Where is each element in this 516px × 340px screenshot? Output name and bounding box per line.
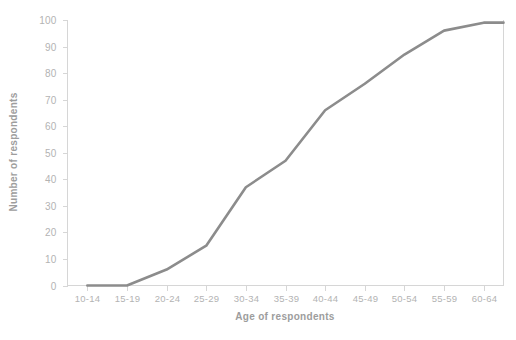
y-tick-label: 0 — [51, 281, 57, 292]
x-axis-title: Age of respondents — [235, 311, 334, 322]
x-tick-label: 15-19 — [115, 293, 140, 304]
x-tick-label: 50-54 — [392, 293, 417, 304]
y-tick-label: 100 — [39, 15, 57, 26]
data-series-line — [87, 23, 503, 286]
x-tick-label: 40-44 — [313, 293, 338, 304]
x-tick-label: 25-29 — [194, 293, 219, 304]
y-tick-label: 90 — [45, 42, 57, 53]
x-tick-label: 45-49 — [353, 293, 378, 304]
x-tick-label: 60-64 — [472, 293, 497, 304]
y-tick-label: 10 — [45, 254, 57, 265]
x-axis-tick-labels: 10-1415-1920-2425-2930-3435-3940-4445-49… — [75, 293, 497, 304]
y-tick-label: 60 — [45, 121, 57, 132]
y-tick-label: 40 — [45, 174, 57, 185]
y-axis-tick-labels: 0102030405060708090100 — [39, 15, 57, 292]
x-tick-label: 20-24 — [155, 293, 180, 304]
x-tick-label: 30-34 — [234, 293, 259, 304]
y-tick-label: 20 — [45, 227, 57, 238]
x-tick-label: 35-39 — [274, 293, 299, 304]
y-tick-label: 80 — [45, 68, 57, 79]
y-tick-label: 70 — [45, 95, 57, 106]
y-axis-ticks — [63, 21, 68, 287]
y-tick-label: 50 — [45, 148, 57, 159]
y-tick-label: 30 — [45, 201, 57, 212]
x-tick-label: 10-14 — [75, 293, 100, 304]
line-chart: 0102030405060708090100 10-1415-1920-2425… — [0, 0, 516, 340]
x-tick-label: 55-59 — [432, 293, 457, 304]
x-axis-ticks — [88, 286, 485, 291]
y-axis-title: Number of respondents — [8, 92, 19, 211]
chart-canvas: 0102030405060708090100 10-1415-1920-2425… — [0, 0, 516, 340]
